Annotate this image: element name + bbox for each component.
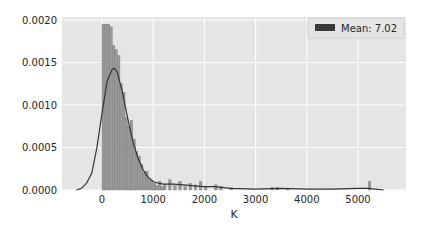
histogram-bar (107, 24, 110, 190)
x-axis-label: K (230, 208, 238, 221)
x-tick-label: 4000 (294, 194, 319, 205)
histogram-chart: 0.00000.00050.00100.00150.0020 010002000… (0, 0, 425, 233)
histogram-bar (169, 180, 172, 190)
y-tick-label: 0.0000 (22, 185, 57, 196)
histogram-bar (153, 183, 156, 190)
histogram-bar (163, 185, 166, 190)
y-tick-label: 0.0010 (22, 100, 57, 111)
histogram-bar (184, 187, 187, 190)
histogram-bar (125, 118, 128, 190)
legend-patch (315, 24, 335, 31)
histogram-bar (156, 186, 159, 190)
histogram-bar (122, 92, 125, 190)
histogram-bar (143, 173, 146, 190)
legend-label: Mean: 7.02 (341, 23, 397, 34)
histogram-bar (179, 182, 182, 191)
histogram-bar (189, 183, 192, 190)
histogram-bar (151, 182, 154, 191)
histogram-bar (148, 180, 151, 190)
y-tick-label: 0.0005 (22, 142, 57, 153)
y-tick-label: 0.0020 (22, 15, 57, 26)
legend: Mean: 7.02 (308, 18, 404, 38)
y-tick-label: 0.0015 (22, 57, 57, 68)
x-tick-label: 5000 (345, 194, 370, 205)
x-axis-ticks: 010002000300040005000 (99, 194, 371, 205)
histogram-bar (110, 27, 113, 190)
histogram-bar (215, 185, 218, 190)
histogram-bar (161, 187, 164, 190)
histogram-bar (112, 46, 115, 191)
histogram-bar (174, 186, 177, 190)
x-tick-label: 2000 (192, 194, 217, 205)
y-axis-ticks: 0.00000.00050.00100.00150.0020 (22, 15, 57, 196)
histogram-bar (105, 24, 108, 190)
x-tick-label: 1000 (140, 194, 165, 205)
x-tick-label: 3000 (243, 194, 268, 205)
x-tick-label: 0 (99, 194, 105, 205)
histogram-bar (128, 126, 131, 190)
histogram-bar (120, 84, 123, 190)
